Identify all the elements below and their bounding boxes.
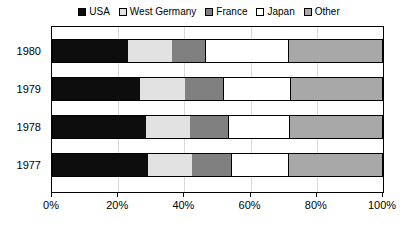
chart-legend: USAWest GermanyFranceJapanOther xyxy=(0,6,418,17)
y-axis-label: 1980 xyxy=(17,45,41,57)
x-axis-tick-label: 40% xyxy=(172,199,194,211)
bar-segment[interactable] xyxy=(190,115,228,139)
legend-swatch-icon xyxy=(304,8,312,16)
bar-segment[interactable] xyxy=(52,77,140,101)
bar-segment[interactable] xyxy=(52,115,146,139)
bar-segment[interactable] xyxy=(205,39,289,63)
legend-item[interactable]: West Germany xyxy=(119,6,197,17)
bar-segment[interactable] xyxy=(52,39,128,63)
bar-segment[interactable] xyxy=(148,153,192,177)
x-axis-tick-label: 20% xyxy=(106,199,128,211)
bar-segment[interactable] xyxy=(289,39,383,63)
legend-item-label: France xyxy=(216,6,247,17)
bar-segment[interactable] xyxy=(289,153,383,177)
bars-layer xyxy=(52,27,383,192)
bar-segment[interactable] xyxy=(231,153,289,177)
bar-row xyxy=(52,153,383,177)
x-axis-tick-mark xyxy=(183,192,184,197)
legend-item-label: USA xyxy=(89,6,110,17)
legend-item-label: West Germany xyxy=(130,6,197,17)
y-axis-category-labels: 1980197919781977 xyxy=(0,26,47,193)
bar-segment[interactable] xyxy=(290,115,383,139)
legend-item-label: Japan xyxy=(267,6,294,17)
legend-item[interactable]: USA xyxy=(78,6,110,17)
x-axis-tick-mark xyxy=(117,192,118,197)
x-axis-tick-label: 60% xyxy=(239,199,261,211)
legend-item[interactable]: Japan xyxy=(256,6,294,17)
legend-item[interactable]: France xyxy=(205,6,247,17)
x-axis-ticks xyxy=(51,192,384,198)
x-axis-tick-mark xyxy=(250,192,251,197)
legend-swatch-icon xyxy=(205,8,213,16)
bar-segment[interactable] xyxy=(185,77,223,101)
bar-row xyxy=(52,39,383,63)
x-axis-tick-mark xyxy=(316,192,317,197)
legend-swatch-icon xyxy=(256,8,264,16)
bar-segment[interactable] xyxy=(52,153,148,177)
stacked-bar-chart: USAWest GermanyFranceJapanOther 19801979… xyxy=(0,0,418,226)
y-axis-label: 1978 xyxy=(17,121,41,133)
bar-segment[interactable] xyxy=(291,77,383,101)
legend-swatch-icon xyxy=(119,8,127,16)
y-axis-label: 1979 xyxy=(17,83,41,95)
legend-item-label: Other xyxy=(315,6,340,17)
bar-segment[interactable] xyxy=(146,115,190,139)
bar-segment[interactable] xyxy=(192,153,231,177)
x-axis-tick-mark xyxy=(51,192,52,197)
x-axis-tick-label: 0% xyxy=(43,199,59,211)
x-axis-tick-label: 100% xyxy=(368,199,396,211)
bar-row xyxy=(52,115,383,139)
bar-segment[interactable] xyxy=(223,77,291,101)
bar-segment[interactable] xyxy=(128,39,172,63)
legend-swatch-icon xyxy=(78,8,86,16)
y-axis-label: 1977 xyxy=(17,159,41,171)
bar-segment[interactable] xyxy=(172,39,205,63)
legend-item[interactable]: Other xyxy=(304,6,340,17)
bar-segment[interactable] xyxy=(140,77,185,101)
x-axis-tick-label: 80% xyxy=(305,199,327,211)
bar-row xyxy=(52,77,383,101)
bar-segment[interactable] xyxy=(228,115,290,139)
x-axis-tick-mark xyxy=(382,192,383,197)
